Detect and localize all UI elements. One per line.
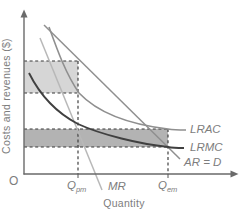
qem-tick-label: Qem (158, 179, 177, 194)
lrac-curve (49, 27, 186, 130)
economics-figure: LRAC LRMC AR = D MR Qpm Qem O Quantity C… (0, 0, 241, 215)
qpm-base: Q (67, 179, 76, 191)
qpm-subscript: pm (75, 185, 86, 194)
x-axis-title: Quantity (103, 197, 145, 209)
y-axis-title: Costs and revenues ($) (0, 38, 12, 154)
qem-subscript: em (167, 185, 177, 194)
chart-canvas: LRAC LRMC AR = D MR Qpm Qem O Quantity C… (0, 0, 241, 215)
qem-base: Q (158, 179, 167, 191)
x-axis-arrow-icon (231, 171, 239, 178)
lrmc-label: LRMC (190, 141, 223, 153)
origin-label: O (9, 174, 18, 188)
y-axis-arrow-icon (21, 10, 28, 18)
lrac-label: LRAC (190, 123, 221, 135)
ar-d-label: AR = D (183, 156, 221, 168)
mr-label: MR (108, 180, 126, 192)
qpm-tick-label: Qpm (67, 179, 86, 194)
